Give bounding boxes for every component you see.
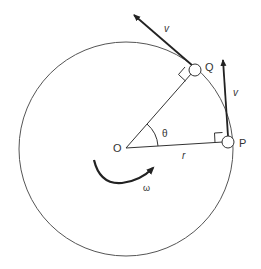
label-angle-theta: θ <box>162 128 168 139</box>
particle-q <box>189 64 201 76</box>
label-angular-velocity: ω <box>143 183 150 193</box>
particle-p <box>222 136 234 148</box>
label-velocity-p: v <box>233 87 239 98</box>
circular-path <box>19 42 233 256</box>
angle-theta-arc <box>147 124 158 146</box>
label-point-q: Q <box>205 61 214 73</box>
label-radius: r <box>182 150 186 161</box>
label-point-p: P <box>239 137 246 149</box>
circular-motion-diagram: O P Q v v r θ ω <box>0 0 261 269</box>
right-angle-marker-q <box>179 67 186 81</box>
right-angle-marker-p <box>215 133 223 143</box>
radius-oq-line <box>126 74 191 148</box>
radius-op-line <box>126 142 223 148</box>
label-velocity-q: v <box>164 23 170 34</box>
label-center-o: O <box>113 142 122 154</box>
angular-velocity-arrow <box>94 160 153 183</box>
velocity-arrow-p <box>223 60 228 136</box>
